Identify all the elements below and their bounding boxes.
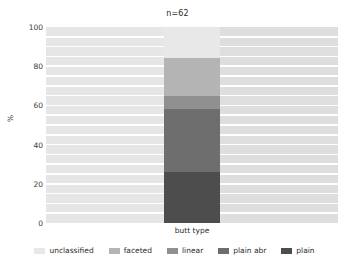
- y-tick-label: 60: [3, 101, 43, 110]
- legend-label: linear: [182, 246, 203, 255]
- y-tick-label: 100: [3, 23, 43, 32]
- chart-title-text: n=62: [166, 9, 188, 18]
- bar-segment-plain[interactable]: [164, 172, 220, 223]
- bar-segment-faceted[interactable]: [164, 58, 220, 96]
- chart-figure: n=62 020406080100 % butt type unclassifi…: [0, 0, 349, 269]
- bar-segment-linear[interactable]: [164, 96, 220, 109]
- legend-label: plain: [296, 246, 314, 255]
- y-tick-label: 40: [3, 140, 43, 149]
- plot-area: [46, 27, 338, 223]
- legend-swatch-icon: [167, 248, 178, 254]
- y-tick-label: 20: [3, 179, 43, 188]
- legend-swatch-icon: [109, 248, 120, 254]
- legend-item[interactable]: unclassified: [34, 246, 93, 255]
- stacked-bar[interactable]: [164, 27, 220, 223]
- legend-item[interactable]: faceted: [109, 246, 152, 255]
- y-axis-label: %: [6, 115, 15, 122]
- legend-label: faceted: [124, 246, 152, 255]
- y-tick-label: 0: [3, 219, 43, 228]
- x-axis-label: butt type: [46, 226, 338, 235]
- y-axis-ticks: 020406080100: [0, 27, 43, 223]
- legend-swatch-icon: [34, 248, 45, 254]
- legend-swatch-icon: [218, 248, 229, 254]
- chart-title: n=62: [0, 9, 349, 18]
- legend-swatch-icon: [281, 248, 292, 254]
- legend-item[interactable]: plain: [281, 246, 314, 255]
- legend-item[interactable]: linear: [167, 246, 203, 255]
- bar-segment-unclassified[interactable]: [164, 27, 220, 58]
- legend-item[interactable]: plain abr: [218, 246, 266, 255]
- legend: unclassifiedfacetedlinearplain abrplain: [0, 246, 349, 255]
- bar-segment-plain-abr[interactable]: [164, 109, 220, 172]
- legend-label: plain abr: [233, 246, 266, 255]
- y-tick-label: 80: [3, 62, 43, 71]
- legend-label: unclassified: [49, 246, 93, 255]
